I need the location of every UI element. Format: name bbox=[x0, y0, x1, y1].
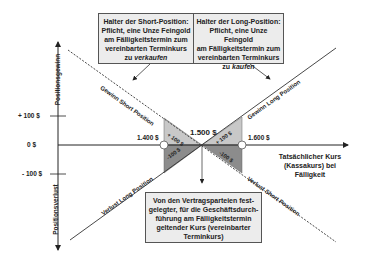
short-box-line: am Fälligkeitstermin zum bbox=[99, 35, 193, 44]
x-axis-label-line: (Kassakurs) bei bbox=[270, 161, 350, 170]
x-point-1500: 1.500 $ bbox=[190, 128, 217, 137]
x-axis-label-line: Tatsächlicher Kurs bbox=[270, 152, 350, 161]
forward-price-info-box: Von den Vertragsparteien fest- gelegter,… bbox=[145, 192, 262, 243]
short-box-line: zu verkaufen bbox=[99, 53, 193, 62]
short-box-line: Pflicht, eine Unze Feingold bbox=[99, 26, 193, 35]
long-box-prefix: zu bbox=[222, 63, 232, 70]
bottom-box-line: geltender Kurs (vereinbarter bbox=[146, 223, 261, 232]
bottom-box-line: führung am Fälligkeitstermin bbox=[146, 214, 261, 223]
long-box-emph: kaufen bbox=[232, 63, 255, 70]
y-axis-lower-label: Positionsverlust bbox=[52, 180, 59, 240]
long-box-line: zu kaufen bbox=[194, 62, 283, 71]
x-point-1400: 1.400 $ bbox=[137, 134, 159, 141]
short-box-line: Halter der Short-Position: bbox=[99, 17, 193, 26]
tick-plus-100: + 100 $ bbox=[18, 112, 40, 119]
bottom-box-line: Terminkurs) bbox=[146, 232, 261, 241]
short-callout-arrow bbox=[133, 64, 150, 80]
short-box-line: vereinbarten Terminkurs bbox=[99, 44, 193, 53]
x-axis-label: Tatsächlicher Kurs (Kassakurs) bei Fälli… bbox=[270, 152, 350, 179]
bottom-box-line: gelegter, für die Geschäftsdurch- bbox=[146, 205, 261, 214]
short-box-prefix: zu bbox=[125, 54, 135, 61]
tick-minus-100: - 100 $ bbox=[22, 170, 42, 177]
short-position-info-box: Halter der Short-Position: Pflicht, eine… bbox=[98, 13, 194, 64]
long-box-line: Halter der Long-Position: bbox=[194, 17, 283, 26]
forward-payoff-diagram: Halter der Short-Position: Pflicht, eine… bbox=[0, 0, 366, 262]
long-box-line: am Fälligkeitstermin zum bbox=[194, 44, 283, 53]
short-box-emph: verkaufen bbox=[134, 54, 167, 61]
long-box-line: Pflicht, eine Unze Feingold bbox=[194, 26, 283, 44]
x-axis-label-line: Fälligkeit bbox=[270, 170, 350, 179]
x-point-1600: 1.600 $ bbox=[248, 134, 270, 141]
bottom-box-line: Von den Vertragsparteien fest- bbox=[146, 196, 261, 205]
long-position-info-box: Halter der Long-Position: Pflicht, eine … bbox=[193, 13, 284, 64]
tick-zero: 0 $ bbox=[27, 141, 36, 148]
point-1400 bbox=[160, 141, 168, 149]
point-1600 bbox=[238, 141, 246, 149]
long-box-line: vereinbarten Terminkurs bbox=[194, 53, 283, 62]
y-axis-upper-label: Positionsgewinn bbox=[54, 50, 61, 110]
